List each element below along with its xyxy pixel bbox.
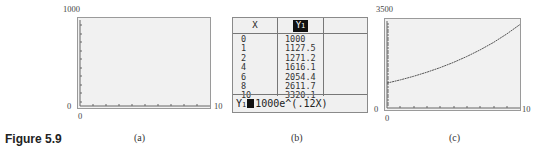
panel-c-plot bbox=[384, 18, 521, 111]
panel-a-ymin-label: 0 bbox=[67, 101, 71, 111]
figure-label: Figure 5.9 bbox=[5, 132, 62, 146]
exponential-curve bbox=[387, 25, 520, 84]
panel-a-caption: (a) bbox=[134, 132, 145, 143]
panel-c-caption: (c) bbox=[449, 132, 460, 143]
panel-a-xmin-label: 0 bbox=[78, 111, 82, 121]
panel-a-plot bbox=[77, 17, 211, 109]
table-y1-values: 1000 1127.5 1271.2 1616.1 2054.4 2611.7 … bbox=[285, 35, 316, 101]
table-header-x: X bbox=[233, 18, 277, 33]
panel-a-xmax-label: 10 bbox=[214, 101, 223, 111]
panel-c-xmax-label: 10 bbox=[522, 104, 531, 114]
column-divider bbox=[323, 18, 324, 96]
equation-entry-line: Y11000e^(.12X) bbox=[233, 94, 367, 112]
panel-a-axes bbox=[78, 18, 212, 110]
panel-a-ymax-label: 1000 bbox=[63, 4, 80, 14]
y1-header-highlight: Y1 bbox=[293, 20, 309, 32]
equals-cursor-icon bbox=[247, 99, 254, 108]
panel-c-ymin-label: 0 bbox=[374, 104, 378, 114]
panel-c-xmin-label: 0 bbox=[385, 113, 389, 123]
panel-b-caption: (b) bbox=[291, 132, 303, 143]
panel-c-ymax-label: 3500 bbox=[376, 4, 393, 14]
panel-b-table: X Y1 0 1 2 4 6 8 10 1000 1127.5 1271.2 1… bbox=[232, 17, 368, 113]
table-header-y1: Y1 bbox=[278, 18, 323, 33]
equation-expression: 1000e^(.12X) bbox=[255, 98, 327, 109]
panel-c-axes bbox=[385, 19, 522, 112]
table-x-values: 0 1 2 4 6 8 10 bbox=[241, 35, 251, 101]
